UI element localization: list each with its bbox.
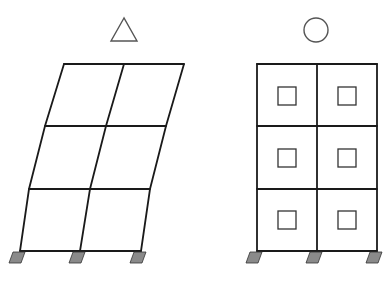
support-icon: [130, 252, 146, 263]
left-column-right: [141, 64, 184, 251]
support-icon: [246, 252, 262, 263]
infill-panel-icon: [338, 211, 356, 229]
infill-panel-icon: [278, 149, 296, 167]
right-supports: [246, 252, 382, 263]
support-icon: [69, 252, 85, 263]
left-frame: [20, 64, 184, 251]
left-column-left: [20, 64, 64, 251]
diagram-canvas: Comparison of two 2-bay, 3-story frames:…: [0, 0, 385, 283]
infill-panel-icon: [278, 211, 296, 229]
support-icon: [306, 252, 322, 263]
infill-panel-icon: [338, 149, 356, 167]
infill-panel-icon: [278, 87, 296, 105]
right-frame: [257, 64, 377, 251]
support-icon: [9, 252, 25, 263]
triangle-symbol-icon: [111, 18, 137, 41]
circle-symbol-icon: [304, 18, 328, 42]
left-column-middle: [80, 64, 124, 251]
left-supports: [9, 252, 146, 263]
support-icon: [366, 252, 382, 263]
infill-panel-icon: [338, 87, 356, 105]
